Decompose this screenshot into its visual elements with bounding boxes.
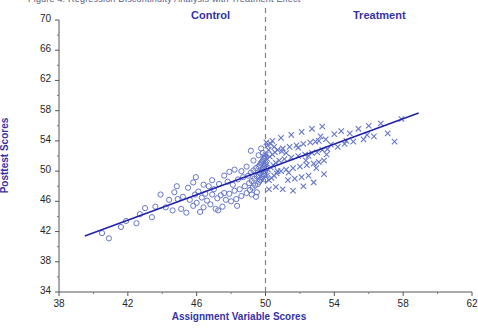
data-point: [227, 191, 232, 196]
data-point: [295, 145, 300, 150]
data-point: [287, 144, 292, 149]
data-point: [244, 190, 249, 195]
data-point: [366, 123, 371, 128]
y-tick-label: 70: [25, 13, 51, 24]
data-point: [118, 224, 123, 229]
data-point: [248, 148, 253, 153]
data-point: [309, 126, 314, 131]
x-tick-label: 46: [182, 298, 212, 309]
y-tick-label: 66: [25, 43, 51, 54]
chart-figure: Figure 4. Regression Discontinuity Analy…: [0, 0, 478, 333]
data-point: [153, 204, 158, 209]
x-tick-label: 62: [457, 298, 478, 309]
series-treatment: [263, 116, 404, 193]
data-point: [280, 187, 285, 192]
y-tick-label: 50: [25, 164, 51, 175]
data-point: [371, 134, 376, 139]
data-point: [321, 171, 326, 176]
data-point: [210, 178, 215, 183]
data-point: [290, 188, 295, 193]
data-point: [215, 196, 220, 201]
y-tick-label: 34: [25, 285, 51, 296]
data-point: [283, 150, 288, 155]
data-point: [232, 167, 237, 172]
data-point: [266, 187, 271, 192]
data-point: [191, 180, 196, 185]
data-point: [149, 215, 154, 220]
x-tick-label: 38: [44, 298, 74, 309]
data-point: [227, 169, 232, 174]
data-point: [299, 174, 304, 179]
data-point: [251, 158, 256, 163]
data-point: [201, 205, 206, 210]
plot-canvas: [0, 0, 478, 333]
y-tick-label: 42: [25, 225, 51, 236]
data-point: [271, 144, 276, 149]
data-point: [308, 140, 313, 145]
data-point: [286, 170, 291, 175]
data-point: [259, 146, 264, 151]
data-point: [332, 131, 337, 136]
data-point: [339, 128, 344, 133]
x-tick-label: 42: [113, 298, 143, 309]
data-point: [273, 184, 278, 189]
data-point: [170, 208, 175, 213]
data-point: [351, 139, 356, 144]
data-point: [301, 141, 306, 146]
data-point: [210, 192, 215, 197]
data-point: [198, 209, 203, 214]
data-point: [191, 203, 196, 208]
x-tick-label: 50: [251, 298, 281, 309]
data-point: [347, 131, 352, 136]
data-point: [223, 197, 228, 202]
data-point: [316, 138, 321, 143]
data-point: [289, 132, 294, 137]
data-point: [201, 182, 206, 187]
data-point: [194, 200, 199, 205]
data-point: [193, 175, 198, 180]
data-point: [142, 206, 147, 211]
data-point: [292, 176, 297, 181]
data-point: [301, 184, 306, 189]
y-tick-label: 62: [25, 73, 51, 84]
y-tick-label: 58: [25, 104, 51, 115]
x-tick-label: 54: [319, 298, 349, 309]
data-point: [311, 180, 316, 185]
data-point: [184, 210, 189, 215]
data-point: [174, 184, 179, 189]
data-point: [158, 192, 163, 197]
data-point: [320, 124, 325, 129]
data-point: [324, 152, 329, 157]
data-point: [228, 199, 233, 204]
data-point: [361, 137, 366, 142]
regression-line: [85, 113, 419, 236]
data-point: [208, 202, 213, 207]
data-point: [167, 197, 172, 202]
data-point: [299, 129, 304, 134]
data-point: [356, 126, 361, 131]
data-point: [297, 164, 302, 169]
data-point: [179, 206, 184, 211]
data-point: [318, 134, 323, 139]
y-tick-label: 46: [25, 194, 51, 205]
data-point: [385, 131, 390, 136]
series-control: [99, 146, 268, 241]
data-point: [185, 185, 190, 190]
data-point: [239, 193, 244, 198]
x-tick-label: 58: [388, 298, 418, 309]
data-point: [239, 169, 244, 174]
data-point: [321, 158, 326, 163]
data-point: [278, 135, 283, 140]
data-point: [306, 173, 311, 178]
data-point: [134, 221, 139, 226]
data-point: [335, 144, 340, 149]
data-point: [222, 173, 227, 178]
data-point: [316, 159, 321, 164]
y-tick-label: 38: [25, 255, 51, 266]
data-point: [237, 187, 242, 192]
data-point: [220, 204, 225, 209]
data-point: [234, 196, 239, 201]
data-point: [392, 139, 397, 144]
data-point: [323, 137, 328, 142]
data-point: [285, 177, 290, 182]
